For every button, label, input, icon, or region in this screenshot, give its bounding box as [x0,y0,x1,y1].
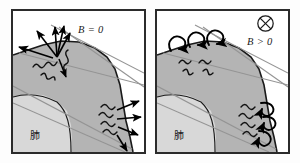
circled-cross-icon [256,14,275,33]
field-label-right: B > 0 [247,36,273,47]
organ-label-right: 肺 [174,127,184,142]
field-label-left: B = 0 [78,24,104,35]
organ-label-left: 肺 [30,127,40,142]
figure-root: B = 0 B > 0 肺 肺 [0,0,300,163]
